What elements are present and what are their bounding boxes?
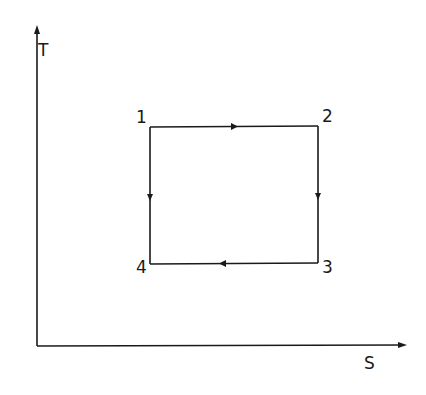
state-label-4: 4 xyxy=(136,257,147,277)
arrow-left-icon xyxy=(219,260,226,267)
y-axis-label: T xyxy=(37,40,49,60)
arrow-down-icon xyxy=(147,194,153,201)
arrow-down-icon xyxy=(315,193,321,200)
x-axis-arrowhead-icon xyxy=(398,342,407,348)
state-label-3: 3 xyxy=(322,257,333,277)
x-axis-label: S xyxy=(364,353,375,373)
cycle xyxy=(147,123,321,267)
state-label-2: 2 xyxy=(322,106,333,126)
process-3-4 xyxy=(150,263,318,264)
y-axis: T xyxy=(34,25,49,346)
state-label-1: 1 xyxy=(136,107,147,127)
x-axis: S xyxy=(37,342,407,373)
ts-diagram: T S 1 2 3 4 xyxy=(0,0,426,395)
arrow-right-icon xyxy=(231,123,238,130)
y-axis-arrowhead-icon xyxy=(34,25,40,34)
